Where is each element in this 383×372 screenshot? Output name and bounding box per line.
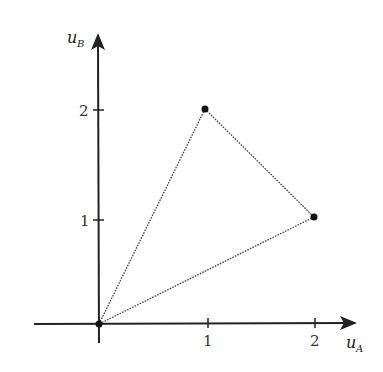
y-axis-label-subscript: B (76, 38, 84, 49)
edge-1-2-to-2-1 (205, 109, 314, 217)
edge-2-1-to-origin (99, 217, 314, 324)
point-origin (96, 321, 103, 328)
y-axis (98, 42, 99, 343)
x-axis-label: u (346, 333, 356, 352)
point-2-1 (311, 214, 318, 221)
x-axis-label-subscript: A (355, 343, 363, 354)
y-axis-label: u (67, 28, 77, 47)
point-1-2 (202, 106, 209, 113)
y-tick-label-1: 1 (80, 212, 90, 230)
edge-origin-to-1-2 (99, 109, 205, 324)
y-tick-label-2: 2 (79, 102, 89, 120)
x-axis (34, 323, 350, 324)
diagram-canvas: 1 2 1 2 u B u A (0, 0, 383, 372)
x-tick-label-1: 1 (203, 332, 213, 350)
x-tick-label-2: 2 (310, 332, 320, 350)
